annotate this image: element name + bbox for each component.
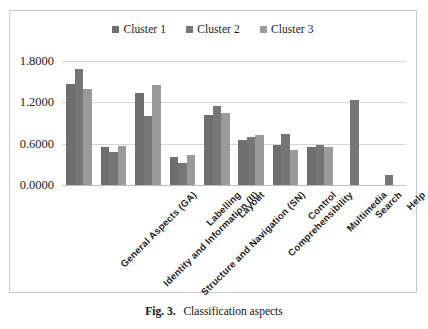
bar-series-layer: [62, 61, 406, 185]
bar[interactable]: [152, 85, 161, 185]
bar-group: [268, 61, 302, 185]
bar[interactable]: [290, 150, 299, 185]
bar[interactable]: [247, 137, 256, 185]
bar[interactable]: [350, 100, 359, 185]
y-axis-tick-label: 1.8000: [20, 54, 54, 69]
x-axis: General Aspects (GA)Identity and Informa…: [62, 185, 406, 285]
legend-swatch-icon: [112, 26, 119, 33]
legend-swatch-icon: [260, 26, 267, 33]
caption-text: Classification aspects: [183, 305, 282, 317]
bar[interactable]: [316, 145, 325, 185]
y-axis-tick-label: 0.0000: [20, 178, 54, 193]
x-axis-tick-label: Help: [404, 189, 427, 212]
legend-swatch-icon: [186, 26, 193, 33]
plot-area: [62, 61, 406, 185]
bar[interactable]: [213, 106, 222, 185]
bar[interactable]: [238, 140, 247, 185]
bar-group: [165, 61, 199, 185]
bar[interactable]: [66, 84, 75, 185]
y-axis: 0.00000.60001.20001.8000: [10, 61, 58, 185]
bar[interactable]: [255, 135, 264, 185]
legend-label: Cluster 1: [123, 23, 166, 35]
caption-prefix: Fig. 3.: [145, 305, 175, 317]
bar[interactable]: [170, 157, 179, 185]
bar-group: [131, 61, 165, 185]
bar[interactable]: [273, 145, 282, 185]
bar-group: [234, 61, 268, 185]
legend-entry[interactable]: Cluster 3: [260, 23, 314, 35]
bar-group: [96, 61, 130, 185]
figure-caption: Fig. 3. Classification aspects: [0, 305, 428, 317]
bar-group: [200, 61, 234, 185]
bar[interactable]: [178, 163, 187, 185]
bar[interactable]: [281, 134, 290, 185]
bar-group: [62, 61, 96, 185]
bar[interactable]: [307, 147, 316, 185]
chart-legend: Cluster 1Cluster 2Cluster 3: [10, 23, 416, 35]
bar[interactable]: [109, 152, 118, 185]
legend-entry[interactable]: Cluster 1: [112, 23, 166, 35]
bar[interactable]: [324, 147, 333, 185]
bar[interactable]: [187, 155, 196, 185]
y-axis-tick-label: 1.2000: [20, 95, 54, 110]
bar[interactable]: [101, 147, 110, 185]
bar[interactable]: [204, 115, 213, 185]
bar-group: [303, 61, 337, 185]
bar[interactable]: [144, 116, 153, 185]
bar-group: [337, 61, 371, 185]
bar[interactable]: [385, 175, 394, 185]
bar[interactable]: [75, 69, 84, 185]
legend-label: Cluster 2: [197, 23, 240, 35]
bar[interactable]: [221, 113, 230, 185]
y-axis-tick-label: 0.6000: [20, 136, 54, 151]
legend-label: Cluster 3: [271, 23, 314, 35]
bar[interactable]: [83, 89, 92, 185]
figure-frame: Cluster 1Cluster 2Cluster 3 0.00000.6000…: [9, 10, 417, 293]
bar[interactable]: [118, 146, 127, 185]
bar-group: [372, 61, 406, 185]
bar[interactable]: [135, 93, 144, 185]
legend-entry[interactable]: Cluster 2: [186, 23, 240, 35]
